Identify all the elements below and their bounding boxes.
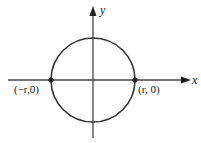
- x-axis-arrow-icon: [181, 77, 191, 84]
- point-pos-r: [132, 77, 137, 82]
- point-label-neg-r: (−r,0): [14, 83, 39, 96]
- point-label-pos-r: (r, 0): [138, 83, 160, 96]
- x-axis-label: x: [191, 73, 198, 87]
- circle-diagram: y x (−r,0) (r, 0): [0, 0, 201, 143]
- y-axis-arrow-icon: [90, 6, 97, 16]
- y-axis-label: y: [99, 3, 106, 17]
- point-neg-r: [48, 77, 53, 82]
